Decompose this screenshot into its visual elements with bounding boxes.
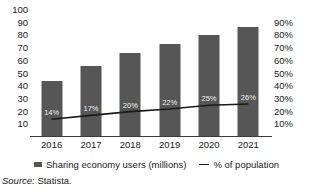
bar-slot: 20% [111, 10, 150, 137]
bar-percent-label: 20% [123, 102, 138, 110]
y-axis-left-tick: 80 [17, 30, 28, 40]
y-axis-left-tick: 50 [17, 69, 28, 79]
bar-percent-label: 14% [44, 109, 59, 117]
chart-legend: Sharing economy users (millions) % of po… [0, 156, 313, 172]
x-axis-tick-2018: 2018 [111, 139, 150, 150]
y-axis-left-tick: 100 [12, 5, 28, 15]
legend-line-swatch-icon [199, 164, 209, 165]
bar-slot: 14% [32, 10, 71, 137]
legend-line-label: % of population [213, 159, 279, 170]
y-axis-right-tick: 50% [274, 69, 293, 79]
y-axis-left: 102030405060708090100 [0, 10, 28, 137]
y-axis-right-tick: 40% [274, 81, 293, 91]
bar [159, 44, 180, 137]
source-label: Source: [2, 175, 35, 186]
source-value: Statista. [37, 175, 71, 186]
bar-percent-label: 22% [162, 99, 177, 107]
y-axis-right-tick: 90% [274, 18, 293, 28]
plot-area: 14%17%20%22%25%26% [32, 10, 268, 137]
bar-slot: 25% [189, 10, 228, 137]
y-axis-right-tick: 10% [274, 119, 293, 129]
bar [238, 27, 259, 137]
y-axis-right-tick: 80% [274, 30, 293, 40]
sharing-economy-chart-figure: 102030405060708090100 10%20%30%40%50%60%… [0, 0, 313, 192]
y-axis-right-tick: 20% [274, 107, 293, 117]
bar-percent-label: 25% [201, 95, 216, 103]
bar-slot: 17% [71, 10, 110, 137]
x-axis-tick-2020: 2020 [189, 139, 228, 150]
bar-percent-label: 17% [83, 105, 98, 113]
x-axis-tick-2016: 2016 [32, 139, 71, 150]
bar [120, 53, 141, 137]
y-axis-right-tick: 70% [274, 43, 293, 53]
y-axis-left-tick: 20 [17, 107, 28, 117]
legend-bar-swatch-icon [34, 162, 42, 167]
bar-slot: 26% [229, 10, 268, 137]
bar-percent-label: 26% [241, 94, 256, 102]
y-axis-left-tick: 30 [17, 94, 28, 104]
y-axis-left-tick: 70 [17, 43, 28, 53]
x-axis-tick-2017: 2017 [71, 139, 110, 150]
legend-item-bars: Sharing economy users (millions) [34, 159, 186, 170]
y-axis-right-tick: 60% [274, 56, 293, 66]
source-note: Source: Statista. [2, 175, 72, 187]
y-axis-left-tick: 10 [17, 119, 28, 129]
x-axis-tick-2019: 2019 [150, 139, 189, 150]
bar [80, 66, 101, 137]
x-axis-tick-2021: 2021 [229, 139, 268, 150]
x-axis-baseline [30, 136, 272, 137]
legend-bars-label: Sharing economy users (millions) [46, 159, 186, 170]
y-axis-left-tick: 90 [17, 18, 28, 28]
bar [198, 35, 219, 137]
y-axis-right-tick: 30% [274, 94, 293, 104]
legend-item-line: % of population [199, 159, 279, 170]
y-axis-right: 10%20%30%40%50%60%70%80%90% [274, 10, 312, 137]
y-axis-left-tick: 40 [17, 81, 28, 91]
bar-slot: 22% [150, 10, 189, 137]
x-axis: 201620172018201920202021 [32, 139, 268, 153]
y-axis-left-tick: 60 [17, 56, 28, 66]
